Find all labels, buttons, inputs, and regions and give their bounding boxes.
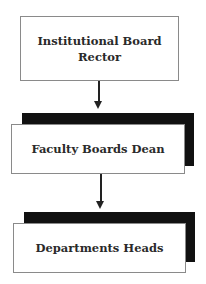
arrow-down-icon	[96, 201, 104, 209]
arrow-line-1	[98, 81, 100, 102]
node-faculty-boards: Faculty Boards Dean	[11, 124, 185, 174]
node-institutional-board: Institutional Board Rector	[20, 16, 179, 81]
node-departments: Departments Heads	[13, 223, 186, 273]
node-subtitle: Rector	[37, 49, 161, 65]
node-title: Faculty Boards Dean	[31, 141, 164, 157]
node-title: Departments Heads	[36, 240, 164, 256]
arrow-down-icon	[94, 101, 102, 109]
arrow-line-2	[100, 174, 102, 202]
node-title: Institutional Board	[37, 33, 161, 49]
